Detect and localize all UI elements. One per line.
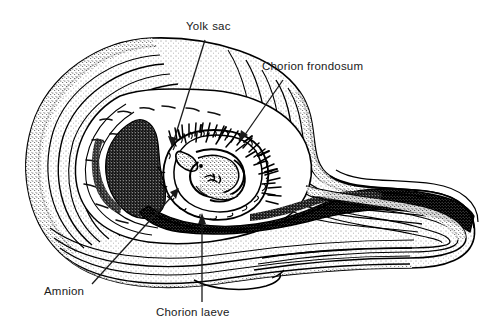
label-yolk-sac-word1: Yolk <box>186 20 208 32</box>
anatomical-figure: Yolksac Chorion frondosum Amnion Chorion… <box>0 0 486 329</box>
label-chorion-laeve: Chorion laeve <box>156 307 230 319</box>
label-chorion-frondosum: Chorion frondosum <box>262 61 363 73</box>
uterus-sagittal-illustration <box>0 0 486 329</box>
label-yolk-sac-word2: sac <box>212 20 231 32</box>
label-yolk-sac: Yolksac <box>186 21 231 33</box>
optic-vesicle-dot <box>199 164 203 168</box>
label-amnion: Amnion <box>44 286 84 298</box>
